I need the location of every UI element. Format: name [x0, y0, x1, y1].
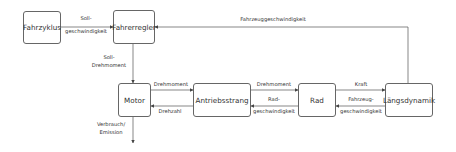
- label-drehzahl: Drehzahl: [158, 108, 181, 115]
- arrow-fahrzeuggeschwindigkeit-feedback: [155, 27, 408, 83]
- label-soll-drehmoment-2: Drehmoment: [92, 62, 126, 69]
- connection-lines: [0, 0, 456, 152]
- label-fahrzeuggeschwindigkeit-2: geschwindigkeit: [340, 108, 382, 115]
- label-soll-geschwindigkeit-2: geschwindigkeit: [65, 28, 107, 35]
- block-rad: Rad: [298, 83, 336, 117]
- label-kraft: Kraft: [355, 81, 367, 88]
- label-drehmoment-antrieb: Drehmoment: [257, 81, 291, 88]
- block-motor: Motor: [118, 83, 151, 117]
- block-fahrerregler: Fahrerregler: [113, 10, 155, 44]
- label-radgeschwindigkeit-1: Rad-: [268, 96, 280, 103]
- label-verbrauch-1: Verbrauch/: [97, 121, 125, 128]
- label-drehmoment-motor: Drehmoment: [154, 81, 188, 88]
- block-antriebsstrang: Antriebsstrang: [193, 83, 251, 117]
- label-soll-geschwindigkeit-1: Soll-: [80, 15, 91, 22]
- block-laengsdynamik: Längsdynamik: [385, 83, 433, 117]
- label-verbrauch-2: Emission: [99, 129, 122, 136]
- block-fahrzyklus: Fahrzyklus: [23, 11, 61, 44]
- label-soll-drehmoment-1: Soll-: [103, 54, 114, 61]
- label-fahrzeuggeschwindigkeit-feedback: Fahrzeuggeschwindigkeit: [240, 16, 305, 23]
- label-fahrzeuggeschwindigkeit-1: Fahrzeug-: [348, 96, 373, 103]
- label-radgeschwindigkeit-2: geschwindigkeit: [253, 108, 295, 115]
